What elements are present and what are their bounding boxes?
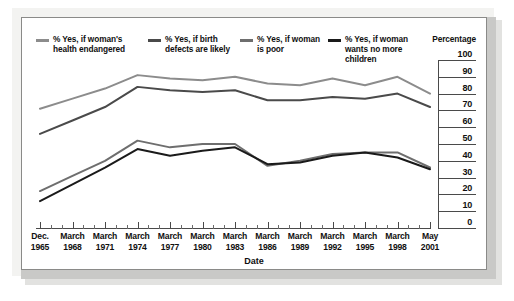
x-tick-major-12 <box>430 222 431 229</box>
x-tick-minor-0-1 <box>51 225 52 229</box>
y-axis: 1009080706050403020100 <box>430 60 476 228</box>
x-axis-label-8: March 1989 <box>288 231 312 252</box>
legend-swatch-3 <box>328 39 341 42</box>
x-axis-labels: Dec. 1965March 1968March 1971March 1974M… <box>36 231 436 259</box>
x-tick-major-4 <box>170 222 171 229</box>
legend-swatch-0 <box>36 39 49 42</box>
x-tick-minor-1-2 <box>94 225 95 229</box>
y-gridline-0 <box>438 228 476 229</box>
y-tick-label-70: 70 <box>462 99 472 109</box>
x-tick-major-11 <box>398 222 399 229</box>
x-tick-minor-8-2 <box>322 225 323 229</box>
x-tick-minor-11-2 <box>419 225 420 229</box>
y-tick-label-90: 90 <box>462 66 472 76</box>
x-axis-label-2: March 1971 <box>93 231 117 252</box>
x-axis-label-10: March 1995 <box>353 231 377 252</box>
y-tick-label-100: 100 <box>458 49 472 59</box>
legend-label-2: % Yes, if woman is poor <box>257 34 320 54</box>
x-tick-minor-7-2 <box>289 225 290 229</box>
x-axis-label-11: March 1998 <box>385 231 409 252</box>
x-axis-label-1: March 1968 <box>60 231 84 252</box>
x-tick-major-7 <box>268 222 269 229</box>
x-tick-minor-5-1 <box>213 225 214 229</box>
x-tick-minor-9-2 <box>354 225 355 229</box>
series-line-0 <box>40 75 430 109</box>
x-axis-label-12: May 2001 <box>421 231 439 252</box>
x-tick-major-3 <box>138 222 139 229</box>
y-tick-label-30: 30 <box>462 167 472 177</box>
x-axis-label-5: March 1980 <box>190 231 214 252</box>
chart-panel: % Yes, if woman's health endangered% Yes… <box>21 17 487 270</box>
y-gridline-50 <box>438 144 476 145</box>
legend-swatch-2 <box>240 39 253 42</box>
x-tick-major-6 <box>235 222 236 229</box>
x-tick-minor-4-1 <box>181 225 182 229</box>
x-axis-label-6: March 1983 <box>223 231 247 252</box>
x-tick-minor-3-1 <box>148 225 149 229</box>
y-tick-label-20: 20 <box>462 183 472 193</box>
y-gridline-20 <box>438 194 476 195</box>
series-line-1 <box>40 87 430 134</box>
x-axis-ticks <box>36 222 430 229</box>
legend-label-0: % Yes, if woman's health endangered <box>53 34 125 54</box>
x-tick-minor-0-2 <box>62 225 63 229</box>
y-gridline-60 <box>438 127 476 128</box>
x-tick-major-5 <box>203 222 204 229</box>
y-tick-label-40: 40 <box>462 150 472 160</box>
x-tick-major-10 <box>365 222 366 229</box>
y-tick-label-0: 0 <box>467 217 472 227</box>
y-gridline-70 <box>438 110 476 111</box>
chart-figure: % Yes, if woman's health endangered% Yes… <box>0 0 514 301</box>
x-tick-major-8 <box>300 222 301 229</box>
x-axis-title: Date <box>22 256 486 266</box>
y-gridline-90 <box>438 77 476 78</box>
y-gridline-30 <box>438 178 476 179</box>
figure-shadow-right <box>487 17 496 279</box>
x-tick-minor-9-1 <box>343 225 344 229</box>
x-tick-minor-8-1 <box>311 225 312 229</box>
x-tick-minor-4-2 <box>192 225 193 229</box>
plot-area <box>36 60 474 228</box>
y-gridline-40 <box>438 161 476 162</box>
x-tick-major-0 <box>40 222 41 229</box>
x-tick-minor-10-1 <box>376 225 377 229</box>
y-gridline-80 <box>438 94 476 95</box>
x-tick-minor-6-2 <box>257 225 258 229</box>
y-gridline-100 <box>438 60 476 61</box>
series-lines <box>36 60 474 228</box>
x-tick-minor-7-1 <box>278 225 279 229</box>
y-axis-unit-label: Percentage <box>432 34 476 44</box>
x-tick-major-2 <box>105 222 106 229</box>
legend-swatch-1 <box>148 39 161 42</box>
x-axis-label-4: March 1977 <box>158 231 182 252</box>
legend-label-1: % Yes, if birth defects are likely <box>165 34 230 54</box>
x-tick-major-1 <box>73 222 74 229</box>
series-line-3 <box>40 147 430 201</box>
x-tick-minor-11-1 <box>408 225 409 229</box>
x-tick-minor-6-1 <box>246 225 247 229</box>
x-tick-major-9 <box>333 222 334 229</box>
x-axis-label-7: March 1986 <box>255 231 279 252</box>
x-tick-minor-3-2 <box>159 225 160 229</box>
y-tick-label-80: 80 <box>462 83 472 93</box>
x-tick-minor-2-2 <box>127 225 128 229</box>
x-tick-minor-2-1 <box>116 225 117 229</box>
y-tick-label-60: 60 <box>462 116 472 126</box>
x-tick-minor-1-1 <box>83 225 84 229</box>
x-tick-minor-5-2 <box>224 225 225 229</box>
x-axis-label-3: March 1974 <box>125 231 149 252</box>
y-tick-label-50: 50 <box>462 133 472 143</box>
x-axis-label-0: Dec. 1965 <box>31 231 49 252</box>
x-tick-minor-10-2 <box>387 225 388 229</box>
x-axis-label-9: March 1992 <box>320 231 344 252</box>
figure-shadow-bottom <box>21 270 496 279</box>
y-tick-label-10: 10 <box>462 200 472 210</box>
y-gridline-10 <box>438 211 476 212</box>
